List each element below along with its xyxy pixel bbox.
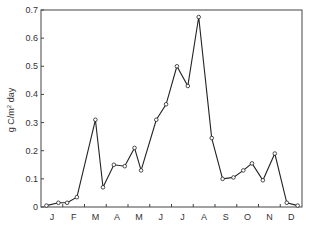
data-point <box>139 169 143 173</box>
data-point <box>112 163 116 167</box>
data-point <box>94 118 98 122</box>
x-tick-label: J <box>158 212 163 222</box>
x-tick-label: O <box>244 212 251 222</box>
y-tick-label: 0.7 <box>25 5 38 15</box>
data-point <box>133 146 137 150</box>
data-point <box>250 162 254 166</box>
data-point <box>186 84 190 88</box>
y-tick-label: 0.1 <box>25 174 38 184</box>
y-tick-label: 0.2 <box>25 146 38 156</box>
data-point <box>175 64 179 68</box>
x-tick-label: A <box>201 212 207 222</box>
data-point <box>273 152 277 156</box>
data-point <box>221 177 225 181</box>
y-tick-label: 0.3 <box>25 118 38 128</box>
data-point <box>57 201 61 205</box>
x-tick-label: A <box>114 212 120 222</box>
y-tick-label: 0 <box>33 202 38 212</box>
y-axis-title: g C/m2 day <box>6 87 16 132</box>
plot-frame <box>41 10 302 207</box>
data-series-line <box>46 17 297 206</box>
data-point <box>101 186 105 190</box>
x-tick-label: S <box>223 212 229 222</box>
data-point <box>232 176 236 180</box>
x-tick-label: D <box>288 212 295 222</box>
y-tick-label: 0.6 <box>25 33 38 43</box>
x-tick-label: J <box>50 212 55 222</box>
data-point <box>75 195 79 199</box>
data-point <box>210 136 214 140</box>
data-point <box>45 204 49 208</box>
data-point <box>164 102 168 106</box>
data-point <box>197 15 201 19</box>
x-tick-label: N <box>266 212 273 222</box>
data-point <box>241 169 245 173</box>
x-tick-label: M <box>92 212 100 222</box>
data-point <box>154 118 158 122</box>
data-point <box>296 204 300 208</box>
line-chart: 00.10.20.30.40.50.60.7 JFMAMJJASOND g C/… <box>0 0 309 228</box>
y-tick-label: 0.4 <box>25 89 38 99</box>
data-point <box>123 164 127 168</box>
x-tick-label: M <box>135 212 143 222</box>
x-tick-label: F <box>71 212 77 222</box>
data-point <box>261 178 265 182</box>
data-point <box>65 201 69 205</box>
data-point <box>285 201 289 205</box>
x-tick-label: J <box>180 212 185 222</box>
y-tick-label: 0.5 <box>25 61 38 71</box>
